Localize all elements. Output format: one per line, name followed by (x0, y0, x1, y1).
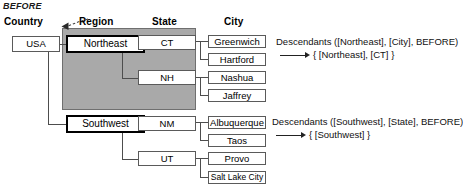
annotation-southwest-call: Descendants ([Southwest], [State], BEFOR… (272, 116, 463, 129)
connector-trunk-southwest (48, 124, 66, 125)
annotation-northeast-arrow-line (280, 55, 306, 56)
node-city-nashua[interactable]: Nashua (208, 71, 266, 84)
connector-ut-saltlakecity (200, 177, 208, 178)
node-state-nm[interactable]: NM (138, 116, 196, 131)
node-city-salt-lake-city[interactable]: Salt Lake City (208, 171, 266, 184)
annotation-southwest-arrow-line (276, 135, 302, 136)
connector-nm-taos (200, 140, 208, 141)
connector-southwest-ut (122, 159, 138, 160)
region-pointer-arrow-icon (58, 17, 92, 33)
node-city-hartford[interactable]: Hartford (208, 53, 266, 66)
node-region-southwest[interactable]: Southwest (66, 115, 145, 133)
node-state-ct[interactable]: CT (138, 35, 196, 50)
node-city-provo[interactable]: Provo (208, 152, 266, 165)
annotation-southwest-result: { [Southwest] } (309, 129, 370, 142)
annotation-northeast-result: { [Northeast], [CT] } (313, 49, 394, 62)
connector-trunk-vertical (48, 44, 49, 125)
node-city-greenwich[interactable]: Greenwich (208, 35, 266, 48)
node-country-usa[interactable]: USA (12, 36, 60, 52)
connector-ct-hartford (200, 59, 208, 60)
node-city-taos[interactable]: Taos (208, 134, 266, 147)
connector-ut-vertical (200, 158, 201, 177)
annotation-northeast-arrow-head-icon (305, 52, 310, 58)
annotation-northeast-call: Descendants ([Northeast], [City], BEFORE… (276, 36, 458, 49)
annotation-southwest-arrow-head-icon (301, 132, 306, 138)
connector-nh-vertical (200, 77, 201, 95)
connector-northeast-nh (122, 78, 138, 79)
connector-nh-jaffrey (200, 95, 208, 96)
connector-ut-provo (200, 158, 208, 159)
node-city-jaffrey[interactable]: Jaffrey (208, 89, 266, 102)
diagram-title: BEFORE (3, 1, 42, 11)
column-header-country: Country (4, 16, 43, 27)
column-header-state: State (152, 16, 177, 27)
column-header-city: City (224, 16, 243, 27)
connector-nm-albuquerque (200, 122, 208, 123)
node-state-ut[interactable]: UT (138, 151, 196, 166)
connector-ct-vertical (200, 41, 201, 59)
node-state-nh[interactable]: NH (138, 70, 196, 85)
node-city-albuquerque[interactable]: Albuquerque (208, 116, 266, 129)
connector-nh-nashua (200, 77, 208, 78)
connector-ct-greenwich (200, 41, 208, 42)
connector-nm-vertical (200, 122, 201, 140)
node-region-northeast[interactable]: Northeast (66, 35, 145, 53)
